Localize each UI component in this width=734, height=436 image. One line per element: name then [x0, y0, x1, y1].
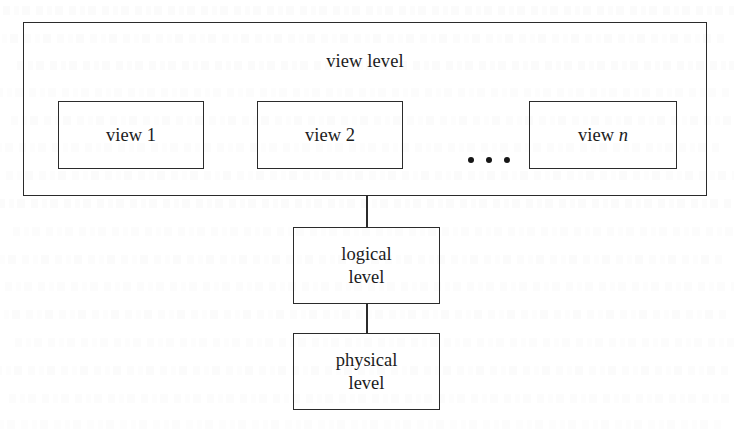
view-box-n: view n — [529, 101, 677, 169]
view-box-2-label-index: 2 — [346, 125, 355, 145]
view-ellipsis-icon — [468, 155, 510, 165]
view-box-n-label: view n — [578, 126, 628, 145]
view-box-2-label: view 2 — [305, 126, 355, 145]
logical-level-label-line1: logical — [341, 243, 391, 266]
view-box-1-label-word: view — [106, 125, 142, 145]
view-level-title: view level — [24, 52, 706, 71]
view-box-n-label-word: view — [578, 125, 614, 145]
physical-level-box: physical level — [293, 333, 440, 410]
physical-level-label-line1: physical — [336, 349, 398, 372]
physical-level-label-line2: level — [349, 372, 385, 395]
logical-level-box: logical level — [293, 227, 440, 304]
view-box-1-label-index: 1 — [147, 125, 156, 145]
logical-level-label-line2: level — [349, 266, 385, 289]
connector-view-to-logical — [366, 195, 368, 228]
ellipsis-dot — [468, 157, 474, 163]
view-box-1-label: view 1 — [106, 126, 156, 145]
ellipsis-dot — [504, 157, 510, 163]
view-level-container: view level view 1 view 2 view n — [23, 22, 707, 196]
view-box-2: view 2 — [257, 101, 403, 169]
three-level-architecture-diagram: view level view 1 view 2 view n logical … — [0, 0, 734, 436]
view-box-1: view 1 — [58, 101, 204, 169]
view-box-n-label-index: n — [619, 125, 628, 145]
view-box-2-label-word: view — [305, 125, 341, 145]
connector-logical-to-physical — [366, 303, 368, 334]
ellipsis-dot — [486, 157, 492, 163]
